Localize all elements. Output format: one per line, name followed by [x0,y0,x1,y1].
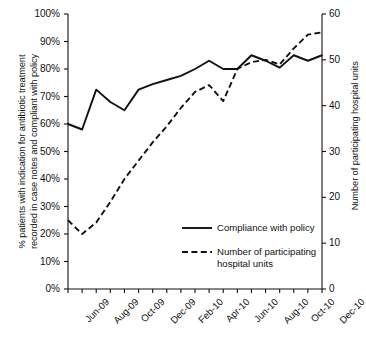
legend-label-units-line2: hospital units [217,258,316,270]
chart-container: % patients with indication for antibioti… [0,0,366,337]
series-line-number-of-participating-hospital-units [68,32,322,234]
y-axis-left-ticks [64,14,68,289]
plot-area [0,0,366,337]
legend-label-units-line1: Number of participating [217,246,316,258]
legend-label-compliance: Compliance with policy [217,222,315,234]
x-axis-ticks [68,289,322,293]
legend-label-units: Number of participating hospital units [217,246,316,269]
